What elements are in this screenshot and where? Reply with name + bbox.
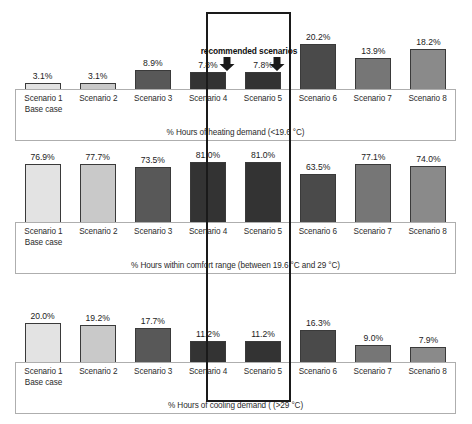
bar-value-label: 74.0% xyxy=(416,154,440,164)
category-label-line1: Scenario 5 xyxy=(244,94,282,103)
category-label-scenario-6: Scenario 6 xyxy=(290,366,345,388)
category-label-scenario-4: Scenario 4 xyxy=(181,226,236,248)
category-label-line1: Scenario 3 xyxy=(134,367,172,376)
bar-comfort-scenario-6 xyxy=(300,174,336,223)
category-row-cooling: Scenario 1Base caseScenario 2Scenario 3S… xyxy=(16,366,455,388)
axis-caption-heating: % Hours of heating demand (<19.6 °C) xyxy=(16,128,455,137)
category-label-scenario-5: Scenario 5 xyxy=(236,366,291,388)
bar-comfort-scenario-8 xyxy=(410,166,446,223)
category-label-scenario-3: Scenario 3 xyxy=(126,366,181,388)
category-label-line2: Base case xyxy=(16,104,71,115)
category-label-scenario-3: Scenario 3 xyxy=(126,226,181,248)
bar-slot-comfort-4: 81.0% xyxy=(180,150,235,223)
bar-cooling-scenario-5 xyxy=(245,341,281,363)
bar-heating-scenario-8 xyxy=(410,49,446,90)
category-label-line1: Scenario 4 xyxy=(189,367,227,376)
bar-comfort-scenario-1 xyxy=(25,164,61,223)
bar-cooling-scenario-1 xyxy=(25,323,61,363)
category-label-scenario-6: Scenario 6 xyxy=(290,93,345,115)
category-label-line1: Scenario 6 xyxy=(299,94,337,103)
bar-slot-heating-2: 3.1% xyxy=(70,20,125,90)
bar-cooling-scenario-2 xyxy=(80,325,116,363)
bar-heating-scenario-7 xyxy=(355,58,391,90)
category-label-scenario-7: Scenario 7 xyxy=(345,93,400,115)
category-label-scenario-2: Scenario 2 xyxy=(71,366,126,388)
bar-slot-comfort-2: 77.7% xyxy=(70,150,125,223)
category-label-scenario-6: Scenario 6 xyxy=(290,226,345,248)
bar-cooling-scenario-6 xyxy=(300,330,336,363)
category-label-line1: Scenario 2 xyxy=(79,94,117,103)
bar-value-label: 3.1% xyxy=(33,71,53,81)
category-label-line1: Scenario 5 xyxy=(244,367,282,376)
bar-comfort-scenario-3 xyxy=(135,167,171,223)
category-label-scenario-5: Scenario 5 xyxy=(236,226,291,248)
category-label-line2: Base case xyxy=(16,377,71,388)
bar-value-label: 11.2% xyxy=(196,329,220,339)
bar-slot-cooling-1: 20.0% xyxy=(15,300,70,363)
category-label-line1: Scenario 2 xyxy=(79,227,117,236)
category-label-line1: Scenario 8 xyxy=(408,94,446,103)
bar-slot-comfort-5: 81.0% xyxy=(236,150,291,223)
bar-value-label: 77.7% xyxy=(86,152,110,162)
category-label-line1: Scenario 1 xyxy=(24,367,62,376)
bar-slot-heating-3: 8.9% xyxy=(125,20,180,90)
category-label-scenario-1: Scenario 1Base case xyxy=(16,366,71,388)
category-label-line1: Scenario 4 xyxy=(189,227,227,236)
bar-value-label: 77.1% xyxy=(361,152,385,162)
bar-slot-cooling-5: 11.2% xyxy=(236,300,291,363)
category-panel-heating: Scenario 1Base caseScenario 2Scenario 3S… xyxy=(15,89,456,141)
bar-slot-cooling-7: 9.0% xyxy=(346,300,401,363)
category-label-line1: Scenario 4 xyxy=(189,94,227,103)
bar-comfort-scenario-7 xyxy=(355,164,391,223)
bar-value-label: 81.0% xyxy=(251,150,275,160)
bar-slot-heating-1: 3.1% xyxy=(15,20,70,90)
bar-value-label: 8.9% xyxy=(143,58,163,68)
axis-caption-cooling: % Hours of cooling demand ( (>29 °C) xyxy=(16,401,455,410)
bar-value-label: 63.5% xyxy=(306,162,330,172)
bar-value-label: 20.0% xyxy=(30,311,54,321)
bar-heating-scenario-5 xyxy=(245,72,281,90)
bar-comfort-scenario-5 xyxy=(245,162,281,223)
bar-value-label: 18.2% xyxy=(416,37,440,47)
bar-slot-comfort-3: 73.5% xyxy=(125,150,180,223)
bar-value-label: 16.3% xyxy=(306,318,330,328)
bars-area-comfort: 76.9%77.7%73.5%81.0%81.0%63.5%77.1%74.0% xyxy=(15,150,456,223)
category-label-line1: Scenario 8 xyxy=(408,367,446,376)
bar-value-label: 81.0% xyxy=(196,150,220,160)
category-label-line1: Scenario 2 xyxy=(79,367,117,376)
category-label-scenario-2: Scenario 2 xyxy=(71,226,126,248)
category-label-line1: Scenario 1 xyxy=(24,94,62,103)
bar-slot-cooling-8: 7.9% xyxy=(401,300,456,363)
category-label-scenario-1: Scenario 1Base case xyxy=(16,226,71,248)
bar-slot-cooling-2: 19.2% xyxy=(70,300,125,363)
category-label-line1: Scenario 1 xyxy=(24,227,62,236)
bar-slot-comfort-1: 76.9% xyxy=(15,150,70,223)
bar-slot-heating-8: 18.2% xyxy=(401,20,456,90)
bar-value-label: 17.7% xyxy=(141,316,165,326)
bar-slot-cooling-4: 11.2% xyxy=(180,300,235,363)
category-label-scenario-8: Scenario 8 xyxy=(400,226,455,248)
category-label-scenario-8: Scenario 8 xyxy=(400,366,455,388)
bar-slot-comfort-6: 63.5% xyxy=(291,150,346,223)
bar-value-label: 3.1% xyxy=(88,71,108,81)
bar-slot-cooling-3: 17.7% xyxy=(125,300,180,363)
category-label-scenario-1: Scenario 1Base case xyxy=(16,93,71,115)
category-row-heating: Scenario 1Base caseScenario 2Scenario 3S… xyxy=(16,93,455,115)
bar-cooling-scenario-7 xyxy=(355,345,391,363)
bar-value-label: 7.9% xyxy=(419,335,439,345)
bar-value-label: 7.8% xyxy=(198,60,218,70)
bar-slot-heating-7: 13.9% xyxy=(346,20,401,90)
category-label-line1: Scenario 3 xyxy=(134,227,172,236)
category-label-line1: Scenario 7 xyxy=(354,227,392,236)
bar-value-label: 73.5% xyxy=(141,155,165,165)
chart-figure: 3.1%3.1%8.9%7.8%7.8%20.2%13.9%18.2% Scen… xyxy=(0,0,472,424)
bar-value-label: 13.9% xyxy=(361,46,385,56)
bar-slot-comfort-8: 74.0% xyxy=(401,150,456,223)
arrow-down-icon xyxy=(269,57,285,71)
bars-area-cooling: 20.0%19.2%17.7%11.2%11.2%16.3%9.0%7.9% xyxy=(15,300,456,363)
category-label-scenario-7: Scenario 7 xyxy=(345,226,400,248)
category-label-line1: Scenario 5 xyxy=(244,227,282,236)
bar-heating-scenario-3 xyxy=(135,70,171,90)
bar-heating-scenario-4 xyxy=(190,72,226,90)
category-label-line1: Scenario 7 xyxy=(354,94,392,103)
